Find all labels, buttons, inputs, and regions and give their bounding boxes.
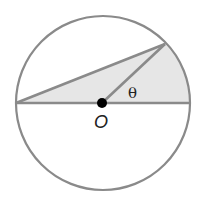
center-label: O bbox=[94, 112, 108, 132]
circle-diagram: θ O bbox=[0, 0, 200, 202]
shaded-region bbox=[16, 44, 190, 103]
center-dot bbox=[97, 98, 107, 108]
angle-label: θ bbox=[128, 84, 137, 102]
